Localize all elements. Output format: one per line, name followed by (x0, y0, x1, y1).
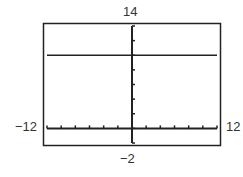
axes (47, 26, 217, 143)
graph-window (0, 0, 243, 177)
